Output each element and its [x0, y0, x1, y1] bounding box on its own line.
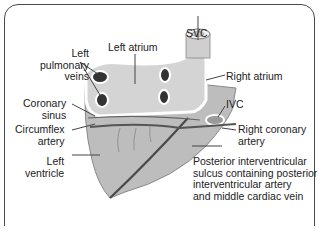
- label-left-atrium: Left atrium: [108, 42, 158, 54]
- left-pulmonary-vein-lower: [96, 93, 108, 107]
- label-line: artery: [15, 136, 65, 148]
- right-pulmonary-vein-upper: [160, 68, 170, 82]
- label-left-ventricle: Left ventricle: [25, 156, 64, 179]
- ivc-opening: [206, 115, 224, 125]
- label-line: Left: [25, 156, 64, 168]
- left-pulmonary-vein-upper: [92, 71, 108, 83]
- label-line: interventricular artery: [193, 179, 317, 191]
- label-line: Left: [40, 48, 89, 60]
- label-posterior-interventricular-sulcus: Posterior interventricular sulcus contai…: [193, 156, 317, 202]
- label-line: ventricle: [25, 168, 64, 180]
- label-circumflex-artery: Circumflex artery: [15, 124, 65, 147]
- label-line: artery: [238, 136, 306, 148]
- label-right-atrium: Right atrium: [226, 71, 283, 83]
- label-right-coronary-artery: Right coronary artery: [238, 124, 306, 147]
- label-line: sinus: [23, 110, 66, 122]
- label-line: veins: [40, 71, 89, 83]
- label-svc: SVC: [186, 28, 208, 40]
- label-ivc: IVC: [226, 99, 244, 111]
- label-line: Circumflex: [15, 124, 65, 136]
- right-pulmonary-vein-lower: [159, 90, 169, 104]
- label-line: Right coronary: [238, 124, 306, 136]
- label-coronary-sinus: Coronary sinus: [23, 98, 66, 121]
- label-line: Coronary: [23, 98, 66, 110]
- label-line: Posterior interventricular: [193, 156, 317, 168]
- label-line: and middle cardiac vein: [193, 191, 317, 203]
- label-left-pulmonary-veins: Left pulmonary veins: [40, 48, 89, 83]
